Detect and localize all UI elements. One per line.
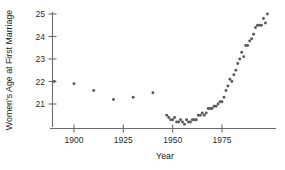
data-point xyxy=(234,69,237,72)
data-point xyxy=(165,114,168,117)
data-point xyxy=(225,89,228,92)
data-point xyxy=(252,33,255,36)
data-point xyxy=(132,96,135,99)
data-point xyxy=(92,89,95,92)
data-point xyxy=(151,91,154,94)
data-point xyxy=(199,114,202,117)
data-point-group xyxy=(53,13,269,126)
data-point xyxy=(240,51,243,54)
data-point xyxy=(53,80,56,83)
x-tick-group: 1900192519501975 xyxy=(65,125,232,146)
data-point xyxy=(189,121,192,124)
data-point xyxy=(236,62,239,65)
data-point xyxy=(217,103,220,106)
data-point xyxy=(179,118,182,121)
y-tick-label: 25 xyxy=(36,9,46,19)
y-tick-label: 24 xyxy=(36,32,46,42)
data-point xyxy=(226,85,229,88)
data-point xyxy=(181,121,184,124)
data-point xyxy=(221,100,224,103)
y-axis-title: Women's Age at First Marriage xyxy=(4,10,14,130)
x-axis-title: Year xyxy=(156,151,174,161)
data-point xyxy=(195,118,198,121)
data-point xyxy=(266,13,269,16)
data-point xyxy=(250,37,253,40)
data-point xyxy=(223,96,226,99)
x-tick-label: 1925 xyxy=(114,135,133,145)
x-tick-label: 1900 xyxy=(65,135,84,145)
scatter-plot-figure: 2122232425 1900192519501975 Year Women's… xyxy=(0,0,285,170)
data-point xyxy=(112,98,115,101)
data-point xyxy=(203,114,206,117)
data-point xyxy=(238,58,241,61)
data-point xyxy=(242,55,245,58)
data-point xyxy=(211,107,214,110)
data-point xyxy=(173,116,176,119)
x-tick-label: 1975 xyxy=(213,135,232,145)
data-point xyxy=(205,112,208,115)
data-point xyxy=(228,78,231,81)
data-point xyxy=(230,80,233,83)
data-point xyxy=(254,26,257,29)
x-tick-label: 1950 xyxy=(163,135,182,145)
y-tick-group: 2122232425 xyxy=(36,9,57,109)
x-axis: 1900192519501975 xyxy=(50,125,276,146)
data-point xyxy=(264,22,267,25)
data-point xyxy=(167,116,170,119)
data-point xyxy=(232,73,235,76)
data-point xyxy=(183,123,186,126)
data-point xyxy=(260,24,263,27)
data-point xyxy=(215,105,218,108)
y-tick-label: 22 xyxy=(36,77,46,87)
data-point xyxy=(73,82,76,85)
data-point xyxy=(262,17,265,20)
y-tick-label: 21 xyxy=(36,99,46,109)
data-point xyxy=(201,112,204,115)
data-point xyxy=(185,118,188,121)
chart-canvas: 2122232425 1900192519501975 Year Women's… xyxy=(0,0,285,170)
data-point xyxy=(246,44,249,47)
data-point xyxy=(177,121,180,124)
y-axis: 2122232425 xyxy=(36,9,57,127)
data-point xyxy=(171,118,174,121)
data-point xyxy=(248,40,251,43)
y-tick-label: 23 xyxy=(36,54,46,64)
